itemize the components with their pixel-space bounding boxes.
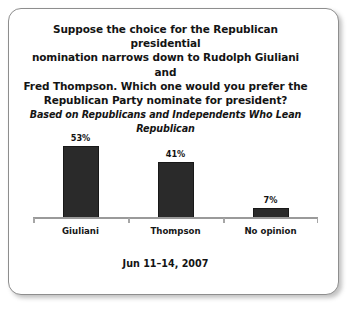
chart-image: Suppose the choice for the Republican pr… (0, 0, 351, 311)
chart-title-line-1: Suppose the choice for the Republican pr… (22, 22, 309, 50)
x-label-giuliani: Giuliani (33, 226, 128, 236)
chart-footnote-date: Jun 11–14, 2007 (22, 258, 309, 269)
bar-value-thompson: 41% (166, 149, 186, 159)
plot-area: 53% 41% 7% (33, 120, 318, 218)
x-label-thompson: Thompson (128, 226, 223, 236)
chart-title-line-4: Republican Party nominate for president? (22, 93, 309, 107)
bar-value-giuliani: 53% (71, 133, 91, 143)
bar-group-no-opinion: 7% (223, 120, 318, 218)
bar-group-thompson: 41% (128, 120, 223, 218)
bar-group-giuliani: 53% (33, 120, 128, 218)
chart-title-line-3: Fred Thompson. Which one would you prefe… (22, 79, 309, 93)
bar-thompson (158, 162, 194, 218)
x-axis-tick-3 (317, 218, 319, 223)
x-axis-tick-2 (223, 218, 225, 223)
bar-value-no-opinion: 7% (264, 195, 278, 205)
x-label-no-opinion: No opinion (223, 226, 318, 236)
x-axis-line (33, 217, 318, 219)
x-axis-category-labels: Giuliani Thompson No opinion (33, 226, 318, 242)
bar-giuliani (63, 146, 99, 218)
x-axis-tick-0 (33, 218, 35, 223)
chart-title-line-2: nomination narrows down to Rudolph Giuli… (22, 50, 309, 78)
x-axis-tick-1 (128, 218, 130, 223)
